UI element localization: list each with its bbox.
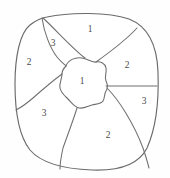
region-diagram-svg: [0, 0, 170, 178]
region-label-center-blob: 1: [80, 77, 85, 87]
region-label-bottom: 2: [106, 131, 111, 141]
region-label-right: 2: [125, 61, 130, 71]
region-label-left: 2: [27, 58, 32, 68]
region-label-upper-left: 3: [51, 39, 56, 49]
region-label-right-lower: 3: [142, 97, 147, 107]
region-diagram-figure: 1 1 3 2 2 3 3 2: [0, 0, 170, 178]
region-label-lower-left: 3: [42, 109, 47, 119]
region-label-top: 1: [88, 25, 93, 35]
